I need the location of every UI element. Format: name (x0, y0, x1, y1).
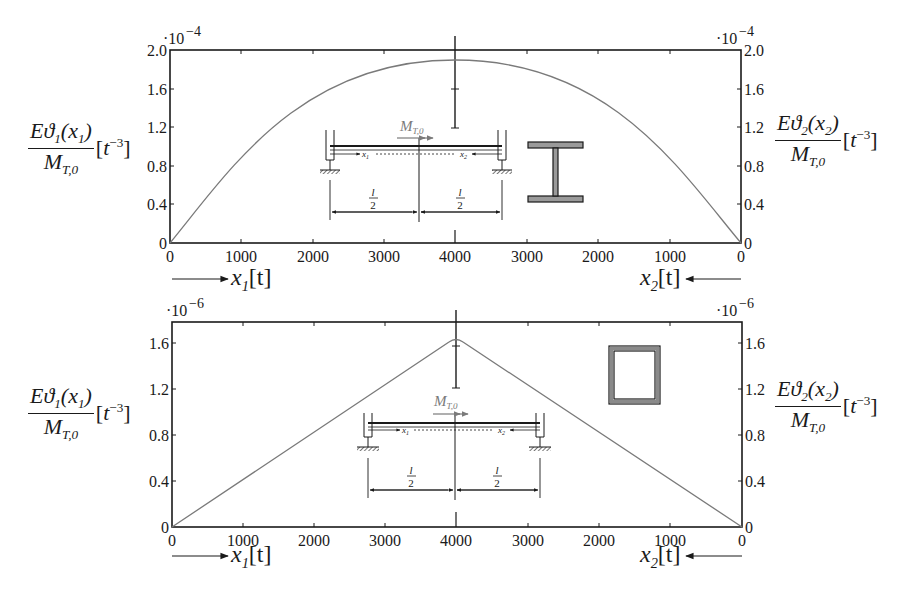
bottom-right-ytick-labels: 0 0.4 0.8 1.2 1.6 (745, 335, 765, 536)
svg-text:0: 0 (737, 248, 745, 265)
svg-text:1.2: 1.2 (744, 119, 764, 136)
bottom-panel: 0 0.4 0.8 1.2 1.6 0 0.4 0.8 1.2 1.6 0 10… (149, 296, 765, 549)
svg-text:MT,0: MT,0 (433, 393, 458, 411)
x2-direction-arrows (686, 279, 742, 556)
svg-text:1.6: 1.6 (147, 81, 167, 98)
top-beam-diagram: x1 x2 MT,0 l 2 l 2 (320, 118, 512, 222)
svg-text:0: 0 (745, 519, 753, 536)
svg-text:0: 0 (744, 235, 752, 252)
svg-text:l: l (458, 186, 461, 198)
bottom-x2-axis-label: x2[t] (640, 541, 681, 572)
svg-text:0.8: 0.8 (745, 427, 765, 444)
box-section-icon (609, 346, 660, 404)
svg-text:2000: 2000 (582, 248, 614, 265)
bottom-scale-left: ·10 −6 (166, 296, 204, 319)
svg-text:0: 0 (166, 248, 174, 265)
svg-text:1.6: 1.6 (149, 335, 169, 352)
top-x1-axis-label: x1[t] (231, 264, 272, 295)
top-left-ylabel: Eϑ1(x1) MT,0 [t−3] (28, 120, 131, 176)
bottom-left-ylabel: Eϑ1(x1) MT,0 [t−3] (28, 385, 131, 441)
svg-text:3000: 3000 (512, 532, 544, 549)
bottom-beam-diagram: x1 x2 MT,0 l 2 l 2 (357, 393, 551, 500)
svg-text:0.4: 0.4 (147, 196, 167, 213)
top-panel: 0 0.4 0.8 1.2 1.6 2.0 0 0.4 0.8 1.2 1.6 … (147, 24, 764, 265)
bottom-right-ylabel: Eϑ2(x2) MT,0 [t−3] (775, 378, 878, 434)
svg-text:l: l (495, 464, 498, 476)
bottom-scale-right: ·10 −6 (716, 296, 754, 319)
svg-text:x2: x2 (459, 149, 467, 160)
svg-text:3000: 3000 (511, 248, 543, 265)
x1-direction-arrows (172, 279, 228, 556)
svg-text:−4: −4 (739, 24, 754, 39)
i-beam-section-icon (528, 142, 583, 202)
svg-text:0.8: 0.8 (149, 427, 169, 444)
svg-text:3000: 3000 (369, 532, 401, 549)
svg-text:x1: x1 (361, 149, 369, 160)
svg-text:−6: −6 (189, 296, 204, 311)
top-right-ytick-labels: 0 0.4 0.8 1.2 1.6 2.0 (744, 42, 764, 252)
svg-text:0: 0 (168, 532, 176, 549)
svg-text:1.2: 1.2 (745, 381, 765, 398)
svg-text:2: 2 (494, 477, 500, 489)
svg-text:1.2: 1.2 (149, 381, 169, 398)
svg-text:·10: ·10 (716, 302, 737, 319)
svg-text:3000: 3000 (368, 248, 400, 265)
svg-text:·10: ·10 (163, 30, 184, 47)
svg-text:0.4: 0.4 (744, 196, 764, 213)
figure-canvas: 0 0.4 0.8 1.2 1.6 2.0 0 0.4 0.8 1.2 1.6 … (0, 0, 910, 591)
svg-text:−4: −4 (186, 24, 201, 39)
top-xtick-labels: 0 1000 2000 3000 4000 3000 2000 1000 0 (166, 248, 745, 265)
svg-text:4000: 4000 (440, 532, 472, 549)
svg-text:l: l (371, 186, 374, 198)
bottom-left-ytick-labels: 0 0.4 0.8 1.2 1.6 (149, 335, 169, 536)
top-scale-left: ·10 −4 (163, 24, 201, 47)
svg-text:·10: ·10 (716, 30, 737, 47)
svg-text:1.6: 1.6 (744, 81, 764, 98)
svg-text:·10: ·10 (166, 302, 187, 319)
svg-text:0.8: 0.8 (744, 158, 764, 175)
svg-text:2: 2 (408, 477, 414, 489)
svg-text:MT,0: MT,0 (399, 118, 424, 136)
svg-text:2000: 2000 (297, 248, 329, 265)
svg-text:2000: 2000 (583, 532, 615, 549)
svg-text:2: 2 (457, 199, 463, 211)
svg-text:0: 0 (738, 532, 746, 549)
svg-text:−6: −6 (739, 296, 754, 311)
top-right-ylabel: Eϑ2(x2) MT,0 [t−3] (775, 112, 878, 168)
svg-text:l: l (409, 464, 412, 476)
svg-text:4000: 4000 (439, 248, 471, 265)
svg-text:2.0: 2.0 (744, 42, 764, 59)
svg-text:2000: 2000 (298, 532, 330, 549)
top-left-ytick-labels: 0 0.4 0.8 1.2 1.6 2.0 (147, 42, 167, 252)
top-x2-axis-label: x2[t] (640, 264, 681, 295)
svg-text:0.4: 0.4 (745, 473, 765, 490)
svg-text:1.2: 1.2 (147, 119, 167, 136)
bottom-x1-axis-label: x1[t] (231, 541, 272, 572)
svg-text:0.4: 0.4 (149, 473, 169, 490)
svg-text:1000: 1000 (654, 248, 686, 265)
svg-text:1.6: 1.6 (745, 335, 765, 352)
svg-text:2: 2 (370, 199, 376, 211)
svg-text:1000: 1000 (225, 248, 257, 265)
svg-text:0.8: 0.8 (147, 158, 167, 175)
